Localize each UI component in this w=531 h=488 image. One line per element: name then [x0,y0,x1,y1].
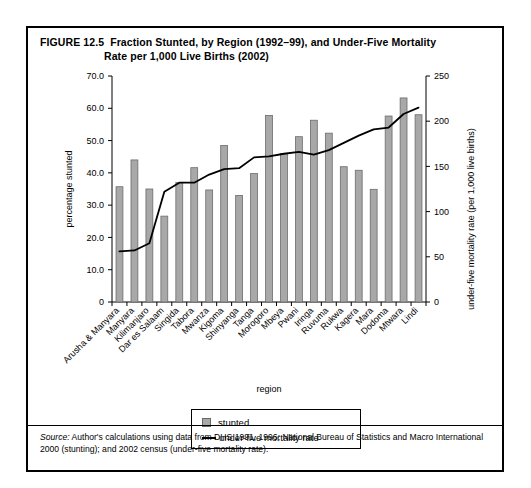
bar-lindi [415,115,422,302]
legend-label-stunted: stunted [218,417,249,428]
y-axis-left-tick-label: 50.0 [86,136,104,146]
source-label: Source: [40,432,70,442]
source-note: Source: Author's calculations using data… [40,432,488,455]
bar-kilimanjaro [146,189,153,302]
y-axis-left-tick-label: 70.0 [86,71,104,81]
bar-mwanza [206,190,213,302]
bar-ruvuma [325,133,332,302]
figure-title-line-2: Rate per 1,000 Live Births (2002) [104,50,490,64]
y-axis-right-tick-label: 250 [434,71,449,81]
source-text: Author's calculations using data from DH… [40,432,483,454]
bar-tabora [191,168,198,302]
bar-tanga [251,174,258,303]
legend-item-stunted: stunted [202,415,360,430]
bar-mara [370,189,377,302]
figure-title-line-1: Fraction Stunted, by Region (1992–99), a… [110,36,436,48]
figure-title: FIGURE 12.5Fraction Stunted, by Region (… [40,36,490,63]
bar-shinyanga [236,195,243,302]
source-divider [28,425,502,426]
y-axis-left-tick-label: 40.0 [86,168,104,178]
bar-rukwa [340,167,347,302]
y-axis-right-tick-label: 200 [434,116,449,126]
y-axis-right-tick-label: 0 [434,297,439,307]
bar-mbeya [281,153,288,302]
bar-pwani [295,137,302,302]
bar-arusha-manyara [116,187,123,302]
stunting-mortality-chart: 010.020.030.040.050.060.070.005010015020… [28,68,502,398]
figure-container: FIGURE 12.5Fraction Stunted, by Region (… [26,26,504,472]
y-axis-left-tick-label: 10.0 [86,265,104,275]
figure-number: FIGURE 12.5 [40,36,104,48]
x-axis-category-label: Lindi [399,305,420,326]
bar-iringa [310,120,317,302]
bar-dodoma [385,116,392,302]
x-axis-title: region [256,384,281,394]
y-axis-left-tick-label: 60.0 [86,103,104,113]
y-axis-left-tick-label: 20.0 [86,233,104,243]
y-axis-right-tick-label: 50 [434,252,444,262]
bar-mtwara [400,98,407,302]
y-axis-left-tick-label: 0 [99,297,104,307]
bar-kagera [355,170,362,302]
y-axis-left-tick-label: 30.0 [86,200,104,210]
bar-dar-es-salaam [161,216,168,302]
y-axis-right-title: under-five mortality rate (per 1,000 liv… [466,128,476,310]
y-axis-left-title: percentage stunted [64,150,74,227]
bar-manyara [131,160,138,302]
y-axis-right-tick-label: 100 [434,207,449,217]
chart-plot-area: 010.020.030.040.050.060.070.005010015020… [28,68,502,398]
y-axis-right-tick-label: 150 [434,162,449,172]
bar-singida [176,183,183,302]
bar-morogoro [266,115,273,302]
